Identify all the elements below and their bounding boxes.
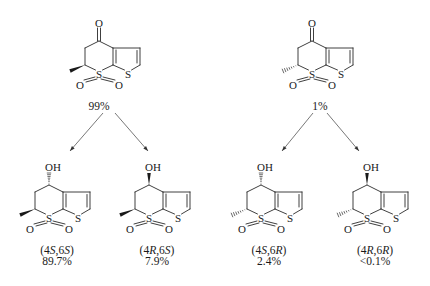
reaction-scheme: SSOOO99%SSOOO1% SSOOOH(4S,6S)89.7%SSOOOH… [0,0,430,286]
hydroxyl-hashed-bond [47,173,51,183]
bond-s-c7a [316,65,327,70]
bond-c3a-c4 [49,185,63,192]
hydroxyl-label: OH [145,161,161,173]
ring-sulfur-label: S [46,212,52,224]
bond-s-c7a [103,65,114,70]
arrow-shaft [327,113,359,151]
config-suffix: ) [283,244,287,257]
bond-s-c7a-thiophene [163,209,175,214]
products: SSOOOH(4S,6S)89.7%SSOOOH(4R,6S)7.9%SSOOO… [19,161,408,267]
thiophene-sulfur-label: S [393,212,399,224]
reaction-arrow [282,113,313,151]
bond-c2-s [345,65,354,70]
hydroxyl-wedge-bond [147,173,151,185]
bond-c4-c5 [85,41,99,48]
reaction-arrows [70,113,359,151]
molecule-alcohol-4S-6S: SSOOOH(4S,6S)89.7% [19,161,90,267]
methyl-wedge-bond [119,209,135,217]
carbonyl-oxygen-label: O [95,17,103,29]
carbonyl-oxygen-label: O [308,17,316,29]
sulfonyl-oxygen-right: O [328,79,336,91]
bond-s-c7a-thiophene [113,65,125,70]
thiophene-sulfur-label: S [125,68,131,80]
methyl-wedge-bond [19,209,35,217]
bond-c6-s [247,209,258,214]
bond-s-c7a-thiophene [381,209,393,214]
thiophene-sulfur-label: S [287,212,293,224]
sulfonyl-oxygen-left: O [289,79,297,91]
sulfonyl-oxygen-right: O [65,223,73,235]
sulfonyl-oxygen-right: O [383,223,391,235]
starting-materials: SSOOO99%SSOOO1% [69,17,353,112]
product-percentage: 7.9% [145,255,169,267]
product-percentage: 2.4% [257,255,281,267]
bond-s-c7a-thiophene [63,209,75,214]
sulfonyl-oxygen-left: O [26,223,34,235]
hydroxyl-hashed-bond [259,173,263,183]
bond-c2-s [82,209,91,214]
hydroxyl-label: OH [363,161,379,173]
ring-sulfur-label: S [146,212,152,224]
bond-c4-c5 [247,185,261,192]
bond-c6-s [135,209,146,214]
bond-c2-s [400,209,409,214]
ring-sulfur-label: S [258,212,264,224]
sulfonyl-oxygen-right: O [165,223,173,235]
bond-s-c7a-thiophene [326,65,338,70]
bond-c2-s [132,65,141,70]
hydroxyl-label: OH [45,161,61,173]
molecule-alcohol-4R-6S: SSOOOH(4R,6S)7.9% [119,161,190,267]
product-percentage: 89.7% [42,255,72,267]
reaction-arrow [70,113,103,151]
sulfonyl-oxygen-right: O [277,223,285,235]
ring-sulfur-label: S [96,68,102,80]
bond-s-c7a-thiophene [275,209,287,214]
fraction-label: 1% [312,100,328,112]
methyl-hashed-bond [231,210,245,218]
molecule-ketone-6S: SSOOO99% [69,17,140,112]
bond-c4-c5 [353,185,367,192]
ring-sulfur-label: S [364,212,370,224]
bond-c6-s [85,65,96,70]
sulfonyl-oxygen-right: O [115,79,123,91]
sulfonyl-oxygen-left: O [344,223,352,235]
bond-c3a-c4 [312,41,326,48]
bond-c4-c5 [135,185,149,192]
hydroxyl-label: OH [257,161,273,173]
bond-c6-s [298,65,309,70]
bond-s-c7a [371,209,382,214]
config-suffix: ) [171,244,175,257]
reaction-arrow [327,113,359,151]
molecule-ketone-6R: SSOOO1% [282,17,353,112]
bond-c2-s [182,209,191,214]
molecule-alcohol-4S-6R: SSOOOH(4S,6R)2.4% [231,161,302,267]
molecule-alcohol-4R-6R: SSOOOH(4R,6R)<0.1% [337,161,408,267]
bond-c6-s [35,209,46,214]
methyl-hashed-bond [282,66,296,74]
bond-c4-c5 [298,41,312,48]
sulfonyl-oxygen-left: O [126,223,134,235]
ring-sulfur-label: S [309,68,315,80]
product-percentage: <0.1% [360,255,391,267]
bond-c6-s [353,209,364,214]
sulfonyl-oxygen-left: O [76,79,84,91]
thiophene-sulfur-label: S [338,68,344,80]
fraction-label: 99% [88,100,110,112]
methyl-wedge-bond [69,65,85,73]
bond-c3a-c4 [261,185,275,192]
bond-c2-s [294,209,303,214]
arrow-shaft [115,113,148,151]
hydroxyl-wedge-bond [365,173,369,185]
bond-s-c7a [265,209,276,214]
methyl-hashed-bond [337,210,351,218]
bond-s-c7a [153,209,164,214]
bond-c3a-c4 [99,41,113,48]
arrow-shaft [282,113,313,151]
bond-c3a-c4 [367,185,381,192]
bond-c4-c5 [35,185,49,192]
thiophene-sulfur-label: S [75,212,81,224]
reaction-arrow [115,113,148,151]
sulfonyl-oxygen-left: O [238,223,246,235]
arrow-shaft [70,113,103,151]
bond-s-c7a [53,209,64,214]
